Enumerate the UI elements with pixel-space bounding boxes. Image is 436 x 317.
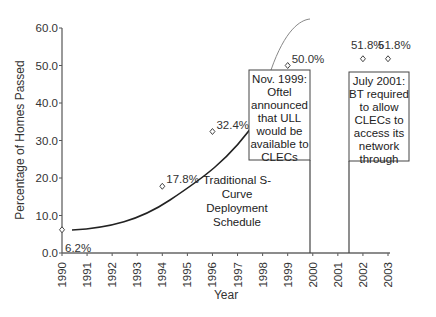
- svg-text:Traditional S-: Traditional S-: [203, 174, 271, 186]
- data-point-marker: [285, 63, 290, 69]
- x-tick-label: 2001: [332, 262, 344, 288]
- svg-text:Nov. 1999:: Nov. 1999:: [252, 73, 307, 85]
- y-tick-label: 10.0: [36, 210, 58, 222]
- data-point-label: 51.8%: [378, 39, 411, 51]
- svg-text:access its: access its: [354, 127, 405, 139]
- y-tick-label: 40.0: [36, 97, 58, 109]
- x-tick-label: 1996: [206, 262, 218, 288]
- y-tick-label: 60.0: [36, 22, 58, 34]
- s-curve-label: Traditional S-CurveDeploymentSchedule: [203, 174, 271, 228]
- y-tick-label: 50.0: [36, 60, 58, 72]
- svg-text:to allow: to allow: [360, 101, 400, 113]
- svg-text:network: network: [359, 140, 400, 152]
- data-point-marker: [160, 183, 165, 189]
- svg-text:announced: announced: [251, 99, 308, 111]
- data-point-marker: [210, 129, 215, 135]
- x-axis-title: Year: [214, 288, 238, 302]
- data-point-label: 32.4%: [216, 119, 249, 131]
- data-point-label: 6.2%: [65, 242, 91, 254]
- x-tick-label: 2003: [382, 262, 394, 288]
- y-axis-title: Percentage of Homes Passed: [13, 60, 27, 219]
- x-tick-label: 1998: [257, 262, 269, 288]
- svg-text:Curve: Curve: [222, 188, 253, 200]
- x-axis-ticks: 1990199119921993199419951996199719981999…: [56, 253, 394, 288]
- svg-text:would be: would be: [255, 125, 302, 137]
- x-tick-label: 1995: [181, 262, 193, 288]
- x-tick-label: 1992: [106, 262, 118, 288]
- data-point-marker: [360, 56, 365, 62]
- chart: 0.010.020.030.040.050.060.0 199019911992…: [0, 0, 436, 317]
- data-point-marker: [60, 227, 65, 233]
- data-point-label: 17.8%: [166, 173, 199, 185]
- x-tick-label: 1993: [131, 262, 143, 288]
- x-tick-label: 2002: [357, 262, 369, 288]
- svg-text:CLECs to: CLECs to: [354, 114, 403, 126]
- svg-text:CLECs: CLECs: [261, 151, 298, 163]
- x-tick-label: 2000: [307, 262, 319, 288]
- data-point-marker: [386, 56, 391, 62]
- x-tick-label: 1990: [56, 262, 68, 288]
- svg-text:BT required: BT required: [349, 88, 409, 100]
- svg-text:Deployment: Deployment: [206, 202, 268, 214]
- svg-text:July 2001:: July 2001:: [353, 75, 405, 87]
- svg-text:through: through: [359, 153, 398, 165]
- y-tick-label: 20.0: [36, 172, 58, 184]
- y-tick-label: 0.0: [42, 247, 58, 259]
- y-tick-label: 30.0: [36, 135, 58, 147]
- x-tick-label: 1991: [81, 262, 93, 288]
- x-tick-label: 1999: [282, 262, 294, 288]
- svg-text:Oftel: Oftel: [267, 86, 291, 98]
- x-tick-label: 1994: [156, 261, 168, 287]
- x-tick-label: 1997: [232, 262, 244, 288]
- svg-text:Schedule: Schedule: [213, 216, 261, 228]
- svg-text:available to: available to: [250, 138, 308, 150]
- y-axis-ticks: 0.010.020.030.040.050.060.0: [36, 22, 62, 259]
- svg-text:that ULL: that ULL: [258, 112, 302, 124]
- data-point-label: 50.0%: [292, 53, 325, 65]
